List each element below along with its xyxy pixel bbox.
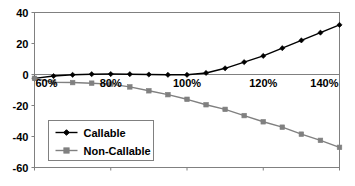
line-chart: 40200-20-40-60 60%80%100%120%140% Callab… [0,0,355,186]
y-axis-label: 20 [16,38,28,50]
x-axis-label: 120% [249,77,277,89]
data-point [166,92,171,97]
data-point [223,107,228,112]
data-point [147,88,152,93]
data-point [261,119,266,124]
y-axis-label: -60 [13,162,29,174]
data-point [318,138,323,143]
y-axis-label: 40 [16,7,28,19]
data-point [204,102,209,107]
data-point [185,97,190,102]
data-point [89,81,94,86]
legend-item-label: Callable [84,127,126,139]
y-axis-label: 0 [22,69,28,81]
x-axis-label: 60% [36,77,58,89]
data-point [280,125,285,130]
data-point [299,132,304,137]
x-axis-label: 140% [310,77,338,89]
chart-container: 40200-20-40-60 60%80%100%120%140% Callab… [0,0,355,186]
legend-marker-square [64,148,69,153]
data-point [128,85,133,90]
y-axis-label: -20 [13,100,29,112]
legend-item-label: Non-Callable [84,145,151,157]
data-point [337,145,342,150]
x-axis-label: 100% [173,77,201,89]
y-axis-label: -40 [13,131,29,143]
chart-legend: CallableNon-Callable [49,121,154,161]
data-point [242,113,247,118]
x-axis-label: 80% [100,77,122,89]
data-point [70,80,75,85]
